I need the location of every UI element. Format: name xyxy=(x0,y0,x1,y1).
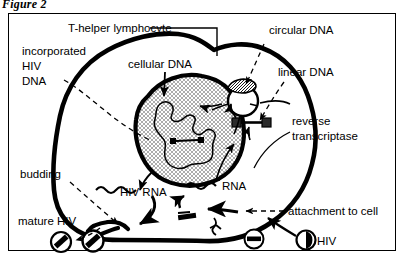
label-linear-dna: linear DNA xyxy=(278,66,334,78)
virion-mature-2 xyxy=(83,231,104,252)
figure-container: Figure 2 xyxy=(0,0,405,263)
leader-cellular-dna xyxy=(164,72,165,96)
virion-hiv xyxy=(297,231,316,250)
label-rna: RNA xyxy=(222,180,247,192)
virion-mature-1 xyxy=(51,232,71,252)
label-incorporated-hiv-dna-line2: HIV xyxy=(22,60,42,72)
attachment-squiggle xyxy=(210,218,221,235)
leader-budding xyxy=(70,182,118,224)
label-circular-dna: circular DNA xyxy=(269,24,334,36)
diagram-canvas: T-helper lymphocyte incorporated HIV DNA… xyxy=(0,0,405,263)
label-hiv-rna: HIV RNA xyxy=(120,186,167,198)
label-attachment-to-cell: attachment to cell xyxy=(288,205,378,217)
label-incorporated-hiv-dna-line3: DNA xyxy=(22,75,47,87)
nucleus xyxy=(136,75,244,186)
label-t-helper-lymphocyte: T-helper lymphocyte xyxy=(68,22,172,34)
label-mature-hiv: mature HIV xyxy=(18,215,76,227)
label-hiv: HIV xyxy=(317,235,337,247)
label-reverse-transcriptase-line2: transcriptase xyxy=(292,130,358,142)
leader-hiv xyxy=(268,218,296,236)
label-reverse-transcriptase-line1: reverse xyxy=(292,115,330,127)
virion-empty xyxy=(245,230,264,249)
label-cellular-dna: cellular DNA xyxy=(128,58,192,70)
label-budding: budding xyxy=(20,168,61,180)
label-incorporated-hiv-dna-line1: incorporated xyxy=(22,45,86,57)
leader-reverse-transcriptase xyxy=(254,132,290,168)
